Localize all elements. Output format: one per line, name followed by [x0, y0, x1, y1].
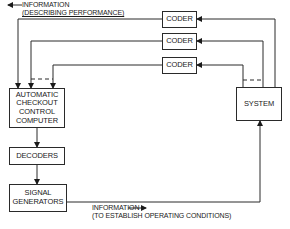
operating-annotation: INFORMATION (TO ESTABLISH OPERATING COND…	[92, 204, 231, 220]
coder-2-box: CODER	[162, 33, 197, 50]
system-label: SYSTEM	[244, 100, 274, 109]
coder-1-label: CODER	[166, 15, 193, 24]
coder-2-label: CODER	[166, 37, 193, 46]
coder-1-box: CODER	[162, 11, 197, 28]
operating-annotation-line2: (TO ESTABLISH OPERATING CONDITIONS)	[92, 212, 231, 220]
performance-annotation-line1: INFORMATION	[22, 1, 124, 9]
system-to-coder-3-line	[197, 65, 243, 87]
diagram-canvas: INFORMATION (DESCRIBING PERFORMANCE) COD…	[0, 0, 290, 229]
performance-annotation-line2: (DESCRIBING PERFORMANCE)	[22, 9, 124, 17]
coder-1-to-computer-line	[18, 19, 162, 88]
computer-label-line4: COMPUTER	[16, 117, 59, 126]
performance-annotation: INFORMATION (DESCRIBING PERFORMANCE)	[22, 1, 124, 17]
signal-generators-box: SIGNAL GENERATORS	[9, 184, 67, 212]
operating-annotation-line1: INFORMATION	[92, 204, 231, 212]
coder-3-label: CODER	[166, 61, 193, 70]
coder-3-box: CODER	[162, 57, 197, 74]
generators-to-system-line	[66, 121, 260, 202]
computer-box: AUTOMATIC CHECKOUT CONTROL COMPUTER	[9, 88, 65, 128]
decoders-box: DECODERS	[9, 147, 65, 165]
system-box: SYSTEM	[236, 87, 282, 121]
signal-generators-label-line2: GENERATORS	[13, 198, 64, 207]
decoders-label: DECODERS	[16, 152, 58, 161]
coder-3-to-computer-line	[53, 65, 162, 88]
